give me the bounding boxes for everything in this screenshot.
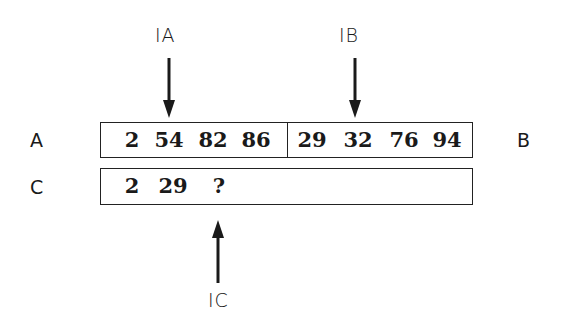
array-a-cell-3: 86 (236, 123, 276, 156)
array-a-cell-1: 54 (149, 123, 189, 156)
array-c-cell-2: ? (199, 169, 239, 202)
array-b-cell-1: 32 (338, 123, 378, 156)
array-a-cell-2: 82 (193, 123, 233, 156)
array-label-c: C (30, 178, 43, 197)
array-c-box: 2 29 ? (100, 168, 473, 205)
array-b-cell-0: 29 (292, 123, 332, 156)
array-b-cell-3: 94 (427, 123, 467, 156)
array-divider (287, 123, 288, 157)
array-a-cell-0: 2 (112, 123, 152, 156)
array-ab-box: 2 54 82 86 29 32 76 94 (100, 122, 473, 158)
arrow-down-icon-ib (349, 58, 361, 118)
array-b-cell-2: 76 (384, 123, 424, 156)
array-c-cell-1: 29 (153, 169, 193, 202)
array-label-a: A (30, 131, 43, 150)
arrow-up-icon-ic (212, 220, 224, 283)
arrow-down-icon-ia (163, 58, 175, 118)
array-c-cell-0: 2 (112, 169, 152, 202)
pointer-arrows (0, 0, 562, 331)
array-label-b: B (517, 131, 530, 150)
